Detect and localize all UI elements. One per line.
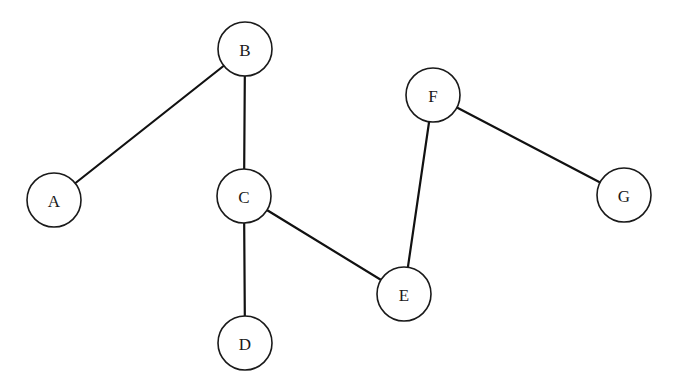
node-label: D xyxy=(239,335,251,354)
node-f: F xyxy=(406,68,460,122)
edge-b-a xyxy=(54,49,245,200)
nodes-layer: ABCDEFG xyxy=(27,22,651,370)
node-label: A xyxy=(48,192,61,211)
node-a: A xyxy=(27,173,81,227)
node-label: E xyxy=(399,286,409,305)
node-d: D xyxy=(218,316,272,370)
node-b: B xyxy=(218,22,272,76)
node-g: G xyxy=(597,168,651,222)
graph-diagram: ABCDEFG xyxy=(0,0,673,386)
edge-e-f xyxy=(404,95,433,294)
edges-layer xyxy=(54,49,624,343)
node-label: F xyxy=(428,87,437,106)
node-label: B xyxy=(239,41,250,60)
node-label: G xyxy=(618,187,630,206)
edge-f-g xyxy=(433,95,624,195)
node-e: E xyxy=(377,267,431,321)
edge-c-e xyxy=(244,196,404,294)
node-c: C xyxy=(217,169,271,223)
node-label: C xyxy=(238,188,249,207)
